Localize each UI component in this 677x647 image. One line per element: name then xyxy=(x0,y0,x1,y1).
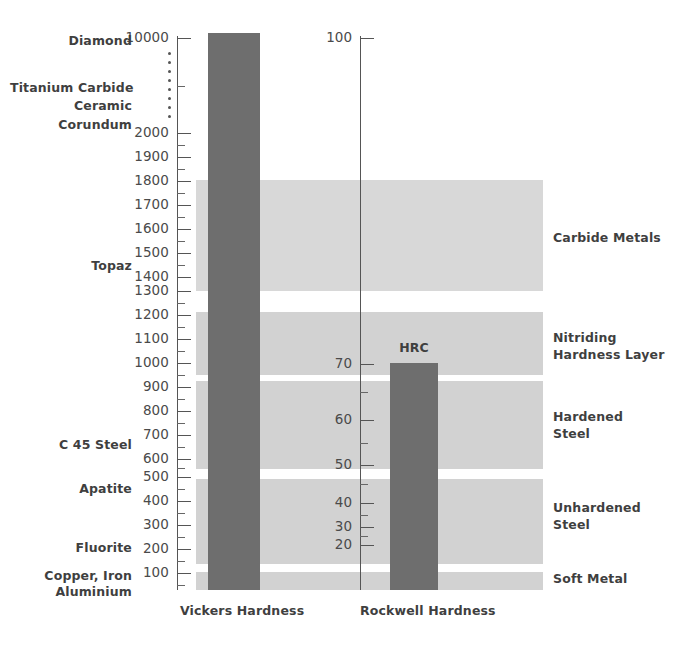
vickers-tick-20 xyxy=(177,573,191,574)
vickers-minor-tick-13 xyxy=(177,423,185,424)
rockwell-tick-label-6: 20 xyxy=(292,536,352,552)
rockwell-tick-1 xyxy=(360,364,374,365)
scale-break-dot-2 xyxy=(168,70,171,73)
scale-break-dot-3 xyxy=(168,79,171,82)
vickers-minor-tick-bottom xyxy=(177,585,185,586)
scale-break-dot-5 xyxy=(168,97,171,100)
zone-label-1: Nitriding Hardness Layer xyxy=(553,329,673,363)
vickers-axis-line xyxy=(177,36,178,590)
vickers-tick-12 xyxy=(177,387,191,388)
rockwell-tick-0 xyxy=(360,38,374,39)
vickers-minor-tick-14 xyxy=(177,447,185,448)
rockwell-tick-label-3: 50 xyxy=(292,456,352,472)
vickers-minor-tick-12 xyxy=(177,399,185,400)
mineral-label-0: Diamond xyxy=(10,33,132,48)
vickers-tick-14 xyxy=(177,435,191,436)
rockwell-minor-tick-1 xyxy=(360,392,368,393)
bar-cap-label-0: HRC xyxy=(390,340,438,355)
vickers-tick-label-13: 800 xyxy=(85,402,169,418)
vickers-tick-label-15: 600 xyxy=(85,450,169,466)
mineral-label-8: Copper, Iron xyxy=(10,568,132,583)
vickers-tick-19 xyxy=(177,549,191,550)
vickers-tick-label-12: 900 xyxy=(85,378,169,394)
vickers-tick-label-2: 1900 xyxy=(85,148,169,164)
rockwell-minor-tick-2 xyxy=(360,443,368,444)
vickers-tick-10 xyxy=(177,339,191,340)
vickers-minor-tick-6 xyxy=(177,265,185,266)
vickers-tick-label-4: 1700 xyxy=(85,196,169,212)
vickers-minor-tick-8 xyxy=(177,303,185,304)
vickers-minor-tick-2 xyxy=(177,169,185,170)
axis-name-1: Rockwell Hardness xyxy=(360,603,475,618)
vickers-tick-15 xyxy=(177,459,191,460)
scale-break-dot-0 xyxy=(168,52,171,55)
zone-label-0: Carbide Metals xyxy=(553,229,673,246)
vickers-minor-tick-17 xyxy=(177,513,185,514)
vickers-tick-9 xyxy=(177,315,191,316)
vickers-tick-4 xyxy=(177,205,191,206)
vickers-minor-tick-11 xyxy=(177,375,185,376)
rockwell-tick-3 xyxy=(360,465,374,466)
vickers-tick-label-18: 300 xyxy=(85,516,169,532)
mineral-label-1: Titanium Carbide xyxy=(10,80,132,95)
mineral-label-3: Corundum xyxy=(10,117,132,132)
vickers-minor-tick-16 xyxy=(177,489,185,490)
scale-break-dot-7 xyxy=(168,115,171,118)
rockwell-tick-label-5: 30 xyxy=(292,518,352,534)
vickers-tick-0 xyxy=(177,38,191,39)
rockwell-tick-6 xyxy=(360,545,374,546)
vickers-tick-label-9: 1200 xyxy=(85,306,169,322)
vickers-tick-2 xyxy=(177,157,191,158)
mineral-label-7: Fluorite xyxy=(10,540,132,555)
vickers-tick-label-10: 1100 xyxy=(85,330,169,346)
vickers-tick-5 xyxy=(177,229,191,230)
rockwell-tick-label-1: 70 xyxy=(292,355,352,371)
rockwell-tick-label-0: 100 xyxy=(292,29,352,45)
vickers-tick-8 xyxy=(177,291,191,292)
rockwell-tick-label-4: 40 xyxy=(292,494,352,510)
mineral-label-6: Apatite xyxy=(10,481,132,496)
vickers-tick-label-3: 1800 xyxy=(85,172,169,188)
vickers-minor-tick-1 xyxy=(177,145,185,146)
hardness-comparison-chart: 1000020001900180017001600150014001300120… xyxy=(0,0,677,647)
vickers-tick-label-8: 1300 xyxy=(85,282,169,298)
rockwell-tick-5 xyxy=(360,527,374,528)
rockwell-minor-tick-3 xyxy=(360,484,368,485)
vickers-tick-label-5: 1600 xyxy=(85,220,169,236)
vickers-minor-tick-10 xyxy=(177,351,185,352)
mineral-label-2: Ceramic xyxy=(10,98,132,113)
rockwell-tick-2 xyxy=(360,420,374,421)
mineral-label-9: Aluminium xyxy=(10,584,132,599)
vickers-tick-3 xyxy=(177,181,191,182)
zone-label-3: Unhardened Steel xyxy=(553,499,673,533)
rockwell-axis-line xyxy=(360,36,361,590)
rockwell-tick-label-2: 60 xyxy=(292,411,352,427)
vickers-minor-tick-0 xyxy=(177,86,185,87)
axis-name-0: Vickers Hardness xyxy=(180,603,290,618)
rockwell-minor-tick-4 xyxy=(360,515,368,516)
vickers-bar xyxy=(208,33,260,590)
vickers-tick-18 xyxy=(177,525,191,526)
scale-break-dot-6 xyxy=(168,106,171,109)
scale-break-dot-1 xyxy=(168,61,171,64)
rockwell-minor-tick-5 xyxy=(360,536,368,537)
zone-label-4: Soft Metal xyxy=(553,570,673,587)
vickers-tick-16 xyxy=(177,477,191,478)
vickers-minor-tick-5 xyxy=(177,241,185,242)
vickers-tick-6 xyxy=(177,253,191,254)
vickers-tick-1 xyxy=(177,133,191,134)
vickers-tick-7 xyxy=(177,277,191,278)
zone-label-2: Hardened Steel xyxy=(553,408,673,442)
vickers-minor-tick-4 xyxy=(177,217,185,218)
vickers-minor-tick-3 xyxy=(177,193,185,194)
mineral-label-5: C 45 Steel xyxy=(10,437,132,452)
rockwell-bar xyxy=(390,363,438,590)
vickers-tick-11 xyxy=(177,363,191,364)
vickers-minor-tick-19 xyxy=(177,561,185,562)
vickers-minor-tick-9 xyxy=(177,327,185,328)
scale-break-dot-4 xyxy=(168,88,171,91)
vickers-minor-tick-18 xyxy=(177,537,185,538)
vickers-minor-tick-15 xyxy=(177,468,185,469)
vickers-tick-13 xyxy=(177,411,191,412)
vickers-tick-label-11: 1000 xyxy=(85,354,169,370)
